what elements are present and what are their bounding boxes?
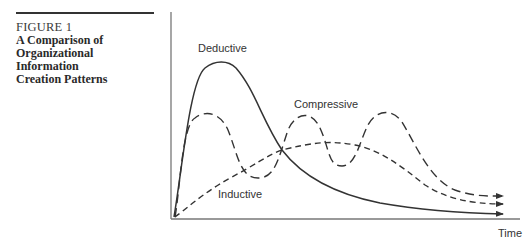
inductive-label: Inductive [218,188,262,200]
inductive-curve [175,143,503,217]
chart: Deductive Compressive Inductive Time [0,0,530,247]
x-axis-label: Time [498,227,522,239]
compressive-curve [175,113,503,217]
deductive-label: Deductive [198,42,247,54]
compressive-label: Compressive [294,98,358,110]
